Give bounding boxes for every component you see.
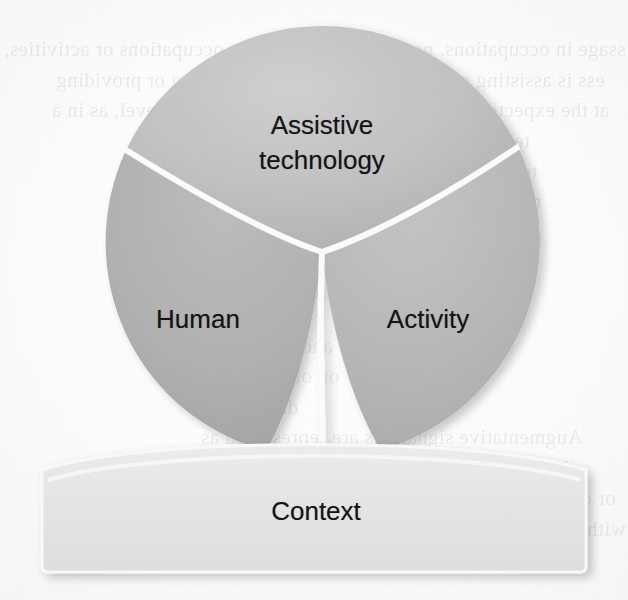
segment-label-activity: Activity (352, 303, 504, 335)
base-label-context: Context (236, 495, 396, 527)
scanned-page: ssage in occupations or activities,ess i… (0, 0, 628, 600)
segmented-circle (106, 26, 540, 460)
divider-vertical (321, 252, 323, 460)
segment-label-assistive-technology: Assistive technology (186, 108, 458, 178)
segment-label-human: Human (122, 303, 274, 335)
